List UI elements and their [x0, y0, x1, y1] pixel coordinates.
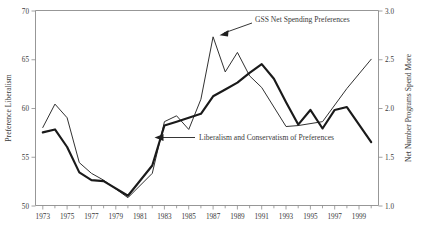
y-axis-right-ticks: [379, 11, 383, 206]
y-tick-label-70: 70: [22, 8, 30, 16]
series-group: [43, 37, 371, 198]
line-chart: 70 65 60 55 50 Preference Liberalism 3.0…: [0, 0, 422, 234]
x-tick-label-1973: 1973: [36, 213, 51, 221]
x-tick-label-1975: 1975: [60, 213, 75, 221]
annotation-gss-net-spending-preferences: GSS Net Spending Preferences: [220, 15, 350, 37]
x-tick-label-1979: 1979: [109, 213, 124, 221]
y2-tick-label-2-0: 2.0: [385, 105, 394, 113]
y-axis-right: 3.0 2.5 2.0 1.5 1.0 Net Number Programs …: [379, 8, 414, 211]
y-tick-label-50: 50: [22, 203, 30, 211]
y-axis-right-title: Net Number Programs Spend More: [404, 53, 413, 162]
y2-tick-label-1-5: 1.5: [385, 154, 394, 162]
series-line-liberalism-and-conservatism-of-preferences: [43, 64, 371, 196]
x-axis-ticks: [43, 206, 371, 210]
y2-tick-label-2-5: 2.5: [385, 56, 394, 64]
arrow-head-icon: [220, 30, 229, 37]
x-tick-label-1981: 1981: [133, 213, 148, 221]
y-tick-label-55: 55: [22, 154, 30, 162]
annotation-label-gss: GSS Net Spending Preferences: [255, 15, 350, 24]
x-tick-label-1991: 1991: [255, 213, 270, 221]
y-axis-left-title: Preference Liberalism: [4, 74, 13, 141]
x-tick-label-1989: 1989: [230, 213, 245, 221]
y2-tick-label-3-0: 3.0: [385, 8, 394, 16]
x-tick-label-1993: 1993: [279, 213, 294, 221]
y-axis-left: 70 65 60 55 50 Preference Liberalism: [4, 8, 36, 211]
x-tick-label-1997: 1997: [328, 213, 343, 221]
x-tick-label-1977: 1977: [84, 213, 99, 221]
y2-tick-label-1-0: 1.0: [385, 203, 394, 211]
x-tick-label-1985: 1985: [182, 213, 197, 221]
series-line-gss-net-spending-preferences: [43, 37, 371, 198]
chart-container: 70 65 60 55 50 Preference Liberalism 3.0…: [0, 0, 422, 234]
x-tick-label-1995: 1995: [303, 213, 318, 221]
x-axis: 1973 1975 1977 1979 1981 1983 1985 1987 …: [36, 206, 372, 222]
x-tick-label-1983: 1983: [157, 213, 172, 221]
annotation-label-liberalism: Liberalism and Conservatism of Preferenc…: [199, 133, 334, 142]
x-tick-label-1999: 1999: [352, 213, 367, 221]
y-tick-label-65: 65: [22, 56, 30, 64]
y-tick-label-60: 60: [22, 105, 30, 113]
annotation-liberalism-and-conservatism-of-preferences: Liberalism and Conservatism of Preferenc…: [155, 133, 335, 142]
y-axis-left-ticks: [32, 11, 36, 206]
x-tick-label-1987: 1987: [206, 213, 221, 221]
